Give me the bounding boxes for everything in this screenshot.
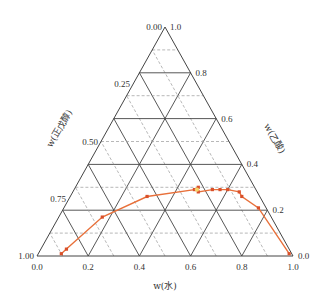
right-axis-label: w(乙酸) xyxy=(262,122,287,155)
tick-label: 1.00 xyxy=(18,251,34,261)
tick-label: 0.0 xyxy=(298,251,310,261)
data-point xyxy=(211,188,214,191)
grid-line xyxy=(101,142,165,257)
data-point xyxy=(218,188,221,191)
grid-line xyxy=(127,96,217,256)
tick-labels: 0.00.20.40.60.81.00.00.20.40.60.81.01.00… xyxy=(18,22,310,272)
triangle-frame xyxy=(37,27,293,256)
ternary-chart: 0.00.20.40.60.81.00.00.20.40.60.81.01.00… xyxy=(0,0,331,295)
grid-line xyxy=(75,187,113,256)
tick-label: 0.0 xyxy=(31,262,43,272)
data-point xyxy=(257,206,260,209)
data-point xyxy=(101,215,104,218)
data-point xyxy=(288,252,291,255)
bottom-axis-label: w(水) xyxy=(153,280,177,291)
tick-label: 0.50 xyxy=(82,137,98,147)
data-point xyxy=(145,195,148,198)
tick-label: 0.2 xyxy=(83,262,94,272)
data-point xyxy=(240,195,243,198)
tick-label: 0.8 xyxy=(196,68,208,78)
tick-label: 0.75 xyxy=(50,194,66,204)
data-point xyxy=(226,188,229,191)
tick-label: 0.8 xyxy=(236,262,248,272)
tick-label: 0.2 xyxy=(272,205,283,215)
plait-point xyxy=(195,187,199,191)
grid-line xyxy=(152,50,267,256)
grid xyxy=(50,50,280,256)
data-point xyxy=(238,190,241,193)
tick-label: 0.6 xyxy=(185,262,197,272)
data-point xyxy=(65,248,68,251)
grid-line xyxy=(114,119,191,256)
tick-label: 0.4 xyxy=(247,159,259,169)
tick-label: 0.00 xyxy=(146,22,162,32)
tick-label: 0.25 xyxy=(114,79,130,89)
tick-label: 1.0 xyxy=(170,22,182,32)
left-axis-label: w(正戊醇) xyxy=(44,107,74,149)
tick-label: 1.0 xyxy=(287,262,299,272)
tick-label: 0.4 xyxy=(134,262,146,272)
data-point xyxy=(60,252,63,255)
tick-label: 0.6 xyxy=(221,114,233,124)
